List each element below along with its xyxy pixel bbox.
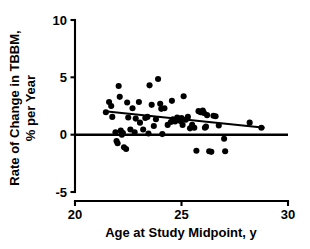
data-point: [124, 100, 130, 106]
data-point: [213, 113, 219, 119]
data-point: [147, 82, 153, 88]
chart-canvas: -50510 202530 Age at Study Midpoint, y R…: [0, 0, 310, 249]
data-point: [117, 94, 123, 100]
data-point: [180, 122, 186, 128]
data-point: [125, 114, 131, 120]
y-tick-label-10: 10: [53, 13, 67, 28]
data-point: [108, 103, 114, 109]
x-tick-label-25: 25: [174, 207, 188, 222]
data-point: [222, 148, 228, 154]
data-point: [112, 129, 118, 135]
data-point: [161, 105, 167, 111]
data-point: [137, 120, 143, 126]
data-point: [221, 136, 227, 142]
x-tick-label-20: 20: [68, 207, 82, 222]
data-point: [145, 130, 151, 136]
data-point: [116, 83, 122, 89]
x-tick-label-30: 30: [281, 207, 295, 222]
data-point: [120, 130, 126, 136]
data-point: [140, 126, 146, 132]
data-point: [181, 93, 187, 99]
x-axis-title: Age at Study Midpoint, y: [105, 225, 257, 240]
x-axis-tick-labels: 202530: [68, 207, 295, 222]
data-point: [247, 120, 253, 126]
data-point: [159, 131, 165, 137]
data-point: [132, 129, 138, 135]
data-point: [191, 125, 197, 131]
data-point: [157, 101, 163, 107]
y-axis-title-line-2: % per Year: [23, 75, 38, 141]
y-tick-label-0: 0: [60, 127, 67, 142]
data-point: [129, 105, 135, 111]
scatter-plot-figure: -50510 202530 Age at Study Midpoint, y R…: [0, 0, 310, 249]
data-point: [136, 99, 142, 105]
data-point: [169, 98, 175, 104]
data-point: [193, 148, 199, 154]
y-axis-title-line-1: Rate of Change in TBBM,: [7, 30, 22, 185]
y-tick-label-5: 5: [60, 70, 67, 85]
data-point: [155, 76, 161, 82]
data-point: [208, 149, 214, 155]
y-axis-tick-labels: -50510: [53, 13, 67, 200]
data-points: [103, 76, 265, 155]
data-point: [203, 124, 209, 130]
data-point: [151, 123, 157, 129]
data-point: [109, 114, 115, 120]
data-point: [149, 102, 155, 108]
y-tick-label--5: -5: [55, 185, 67, 200]
data-point: [204, 112, 210, 118]
data-point: [115, 140, 121, 146]
data-point: [123, 146, 129, 152]
